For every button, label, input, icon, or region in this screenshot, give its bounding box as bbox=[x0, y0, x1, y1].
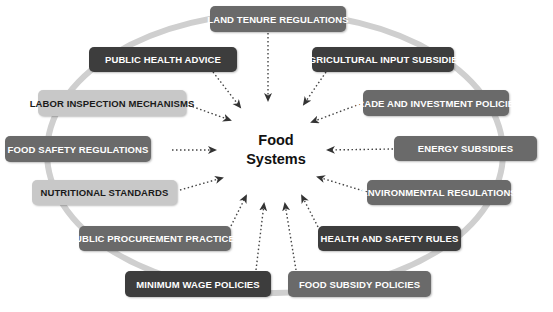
arrow-nutritional bbox=[180, 178, 222, 190]
node-public-procurement-practices: PUBLIC PROCUREMENT PRACTICES bbox=[79, 226, 231, 251]
node-public-health-advice: PUBLIC HEALTH ADVICE bbox=[89, 47, 237, 72]
arrow-public-health bbox=[213, 72, 240, 107]
node-minimum-wage-policies: MINIMUM WAGE POLICIES bbox=[125, 271, 271, 297]
arrow-agri-input bbox=[304, 72, 326, 104]
arrow-minimum-wage bbox=[256, 204, 264, 270]
node-health-and-safety-rules: HEALTH AND SAFETY RULES bbox=[318, 226, 461, 251]
node-land-tenure-regulations: LAND TENURE REGULATIONS bbox=[210, 6, 346, 32]
center-food-systems: Food Systems bbox=[230, 131, 322, 169]
node-food-safety-regulations: FOOD SAFETY REGULATIONS bbox=[5, 136, 151, 162]
node-trade-and-investment-policies: TRADE AND INVESTMENT POLICIES bbox=[363, 90, 509, 116]
arrow-energy bbox=[328, 149, 393, 150]
node-environmental-regulations: ENVIRONMENTAL REGULATIONS bbox=[367, 180, 511, 205]
arrow-procurement bbox=[231, 196, 246, 226]
arrow-environmental bbox=[318, 177, 367, 192]
node-food-subsidy-policies: FOOD SUBSIDY POLICIES bbox=[288, 271, 431, 297]
center-label-line1: Food bbox=[230, 131, 322, 150]
arrow-food-subsidy bbox=[285, 204, 296, 270]
node-energy-subsidies: ENERGY SUBSIDIES bbox=[394, 136, 537, 161]
node-nutritional-standards: NUTRITIONAL STANDARDS bbox=[32, 180, 177, 205]
arrow-health-safety bbox=[302, 196, 318, 227]
node-agricultural-input-subsidies: AGRICULTURAL INPUT SUBSIDIES bbox=[312, 47, 454, 72]
center-label-line2: Systems bbox=[230, 150, 322, 169]
food-systems-diagram: Food Systems LAND TENURE REGULATIONS PUB… bbox=[0, 0, 553, 312]
node-labor-inspection-mechanisms: LABOR INSPECTION MECHANISMS bbox=[38, 90, 186, 116]
